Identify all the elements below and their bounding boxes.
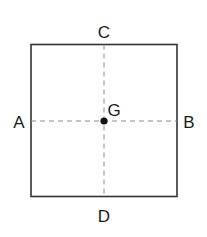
label-c: C xyxy=(98,23,110,42)
label-g: G xyxy=(107,101,120,120)
square-diagram: C D A B G xyxy=(0,0,207,237)
label-b: B xyxy=(183,113,194,132)
label-a: A xyxy=(13,113,25,132)
label-d: D xyxy=(98,207,110,226)
